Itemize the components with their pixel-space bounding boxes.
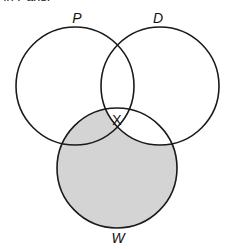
label-w: W: [111, 230, 126, 246]
label-d: D: [153, 10, 163, 26]
venn-diagram: P D W X: [0, 0, 226, 249]
label-p: P: [72, 10, 82, 26]
label-x-region: X: [112, 112, 122, 128]
